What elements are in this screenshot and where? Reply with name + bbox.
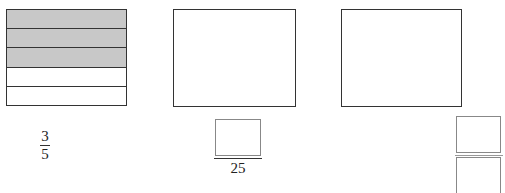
shaded-bar-model [6,9,127,106]
fraction-denominator-2: 25 [214,160,262,176]
shaded-row [7,48,126,67]
unshaded-row [7,87,126,105]
unshaded-row [7,68,126,87]
denominator-answer-box-3[interactable] [456,157,501,193]
fraction-denominator: 5 [41,147,49,162]
numerator-answer-box-2[interactable] [215,119,261,156]
fraction-numerator: 3 [41,129,49,144]
blank-model-2[interactable] [173,9,296,107]
blank-model-3[interactable] [341,9,462,107]
fraction-label-1: 3 5 [40,129,50,162]
fraction-bar-3 [455,155,503,156]
fraction-bar-2 [214,158,262,159]
shaded-row [7,29,126,48]
numerator-answer-box-3[interactable] [456,116,501,153]
shaded-row [7,10,126,29]
